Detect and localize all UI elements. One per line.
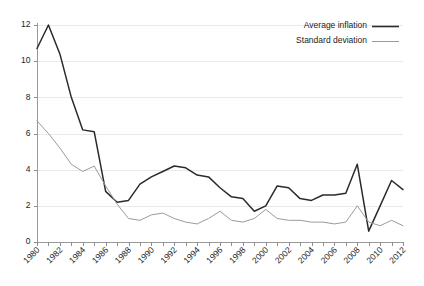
- y-tick-label: 2: [26, 200, 31, 210]
- x-tick-label: 1992: [158, 245, 179, 266]
- x-tick-label: 1988: [113, 245, 134, 266]
- chart-legend: Average inflationStandard deviation: [296, 20, 399, 45]
- chart-container: 024681012 198019821984198619881990199219…: [0, 0, 424, 286]
- x-tick-label: 1986: [90, 245, 111, 266]
- series-average-inflation: [37, 25, 403, 231]
- y-tick-label: 8: [26, 92, 31, 102]
- x-tick-label: 1982: [44, 245, 65, 266]
- x-tick-label: 1984: [67, 245, 88, 266]
- y-tick-label: 0: [26, 236, 31, 246]
- x-tick-label: 1994: [181, 245, 202, 266]
- x-tick-label: 1980: [21, 245, 42, 266]
- x-tick-label: 1990: [136, 245, 157, 266]
- x-axis-tick-labels: 1980198219841986198819901992199419961998…: [21, 245, 408, 266]
- y-tick-label: 12: [21, 19, 31, 29]
- legend-label: Standard deviation: [296, 35, 367, 45]
- x-tick-label: 2008: [341, 245, 362, 266]
- grid-lines: [37, 26, 403, 207]
- x-tick-label: 2000: [250, 245, 271, 266]
- y-tick-label: 10: [21, 55, 31, 65]
- y-tick-label: 6: [26, 128, 31, 138]
- y-axis-ticks: [34, 26, 38, 243]
- y-axis-tick-labels: 024681012: [21, 19, 31, 246]
- x-tick-label: 2004: [296, 245, 317, 266]
- inflation-line-chart: 024681012 198019821984198619881990199219…: [0, 0, 424, 286]
- x-tick-label: 1998: [227, 245, 248, 266]
- legend-label: Average inflation: [304, 20, 367, 30]
- x-tick-label: 2010: [364, 245, 385, 266]
- x-tick-label: 2002: [273, 245, 294, 266]
- x-tick-label: 1996: [204, 245, 225, 266]
- x-tick-label: 2012: [387, 245, 408, 266]
- data-series: [37, 25, 403, 231]
- series-standard-deviation: [37, 121, 403, 226]
- x-tick-label: 2006: [319, 245, 340, 266]
- y-tick-label: 4: [26, 164, 31, 174]
- axes: [38, 23, 404, 243]
